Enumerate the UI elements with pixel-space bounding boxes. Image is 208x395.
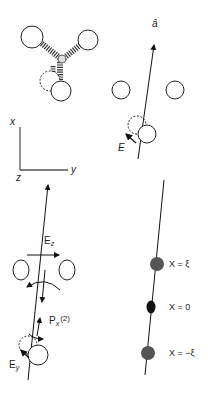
atom-center xyxy=(58,55,66,63)
point-x-xi xyxy=(150,257,164,271)
position-line xyxy=(145,180,164,375)
label-x-0: X = 0 xyxy=(169,302,190,312)
down-arrow xyxy=(42,270,45,302)
atom-bottom xyxy=(51,81,71,101)
atom-right xyxy=(59,260,75,280)
label-x-neg-xi: X = −ξ xyxy=(169,348,195,358)
atom-top-left xyxy=(21,26,43,48)
px-arrow xyxy=(37,318,40,336)
x-axis-label: x xyxy=(9,116,16,127)
positions-panel: X = ξ X = 0 X = −ξ xyxy=(141,180,195,375)
label-x-xi: X = ξ xyxy=(169,259,189,269)
molecule-panel xyxy=(21,26,98,101)
coordinate-axes-panel: x y z xyxy=(9,116,77,183)
atom-bottom xyxy=(138,125,156,143)
point-x-0 xyxy=(147,301,156,314)
ey-label: Ey xyxy=(9,359,20,372)
px-label: Px(2) xyxy=(49,314,70,327)
y-axis-label: y xyxy=(70,164,77,175)
z-axis-label: z xyxy=(15,172,21,183)
small-rotation-arrow xyxy=(29,334,43,339)
physics-diagram: â E x y z Ez Px(2) Ey X xyxy=(0,0,208,395)
atom-left xyxy=(112,81,130,99)
field-diagram-panel: Ez Px(2) Ey xyxy=(9,185,75,380)
axis-a-label: â xyxy=(152,18,158,29)
field-e-label: E xyxy=(118,142,125,153)
ez-label: Ez xyxy=(44,235,55,247)
atom-left xyxy=(13,260,29,280)
atom-bottom xyxy=(28,345,48,365)
spring-left xyxy=(40,42,60,58)
atom-top-right xyxy=(78,30,98,50)
atom-right xyxy=(166,81,184,99)
axis-vector-panel: â E xyxy=(112,18,184,159)
field-e-arrow xyxy=(126,134,136,143)
point-x-neg-xi xyxy=(141,346,155,360)
